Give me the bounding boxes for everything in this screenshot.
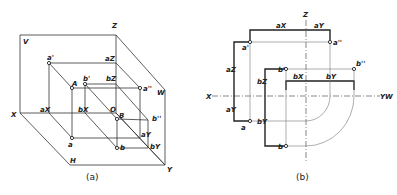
label-ay: aY [141, 131, 152, 139]
point-b [284, 144, 287, 147]
label-a-prime: a' [242, 44, 249, 52]
label-H: H [70, 157, 76, 165]
label-a: a [68, 141, 73, 149]
label-by2: bY [257, 118, 268, 126]
line-az-a-dprime [116, 63, 140, 88]
dim-ax [250, 30, 306, 40]
label-b-prime: b' [278, 66, 285, 74]
point-a [248, 119, 251, 122]
label-W: W [157, 89, 165, 97]
point-a [70, 136, 73, 139]
label-a-prime: a' [47, 54, 54, 62]
arc-a [306, 96, 330, 121]
point-a-dprime [138, 86, 141, 89]
label-ay2: aY [226, 106, 237, 114]
label-az: aZ [105, 55, 116, 63]
arc-b [306, 96, 354, 146]
label-by: bY [326, 73, 337, 81]
caption-b: (b) [296, 172, 309, 182]
point-a-prime [248, 40, 251, 43]
dim-bx [286, 81, 306, 90]
label-b: b [278, 143, 283, 151]
point-b [115, 146, 118, 149]
label-bz: bZ [106, 75, 117, 83]
label-b-prime: b' [83, 75, 90, 83]
figure-a: V Z W X H Y O a' aZ A a'' b' bZ aX bX B … [10, 22, 173, 182]
line-bx-b [85, 113, 117, 148]
label-az: aZ [226, 66, 237, 74]
label-Z: Z [111, 22, 118, 30]
line-a-prime-A [49, 63, 72, 88]
label-X: X [10, 111, 17, 119]
dim-ay [306, 30, 330, 40]
label-b-dprime: b'' [152, 115, 161, 123]
label-ax: aX [40, 106, 51, 114]
figure-b: Z X YW aX aY a' a'' aZ aY a b' b'' bX bY… [205, 11, 393, 182]
label-Y: Y [167, 166, 173, 174]
label-YW: YW [380, 93, 393, 101]
label-X: X [205, 93, 212, 101]
v-plane-edge [20, 35, 116, 113]
label-O: O [110, 106, 116, 114]
point-a-dprime [328, 40, 331, 43]
projection-diagrams: V Z W X H Y O a' aZ A a'' b' bZ aX bX B … [0, 0, 397, 195]
caption-a: (a) [86, 172, 99, 182]
label-bz: bZ [257, 78, 268, 86]
label-ay: aY [314, 22, 325, 30]
label-Z: Z [302, 11, 309, 19]
label-bx: bX [78, 106, 89, 114]
label-b-dprime: b'' [356, 60, 365, 68]
dim-ay2 [234, 96, 250, 121]
label-a-dprime: a'' [143, 85, 152, 93]
label-B: B [119, 112, 124, 120]
label-a-dprime: a'' [333, 39, 342, 47]
line-ax-a [49, 113, 72, 138]
label-ax: aX [276, 22, 287, 30]
label-A: A [71, 80, 77, 88]
label-a: a [241, 124, 246, 132]
label-b: b [120, 144, 125, 152]
label-bx: bX [293, 73, 304, 81]
label-V: V [23, 38, 29, 46]
label-by: bY [150, 143, 161, 151]
